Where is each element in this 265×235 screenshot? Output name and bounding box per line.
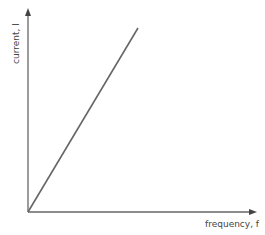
data-line (28, 28, 138, 212)
x-axis-label: frequency, f (205, 219, 259, 229)
y-axis-arrow-icon (25, 8, 31, 16)
chart-canvas (0, 0, 265, 235)
x-axis-arrow-icon (249, 209, 257, 215)
y-axis-label: current, I (11, 14, 23, 64)
